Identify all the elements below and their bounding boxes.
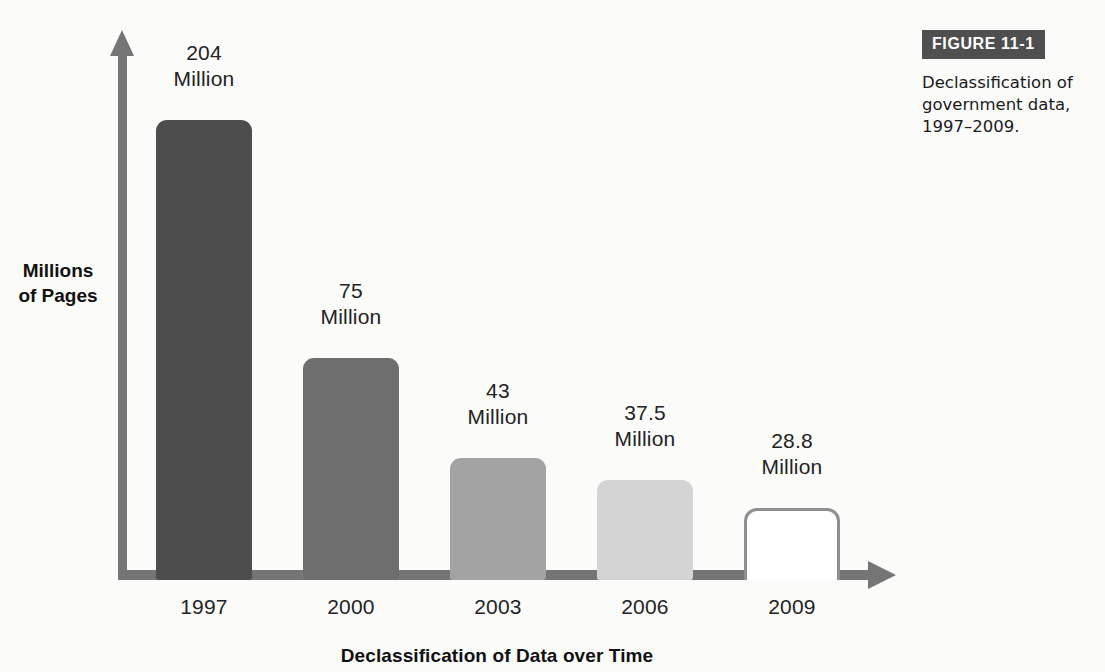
figure-container: 204 Million199775 Million200043 Million2… [0, 0, 1105, 672]
bar-value-label-1997: 204 Million [140, 40, 268, 92]
y-axis-title: Millions of Pages [2, 258, 114, 308]
bar-value-label-2009: 28.8 Million [728, 428, 856, 480]
bar-value-label-2000: 75 Million [287, 278, 415, 330]
x-axis-tick-label-2003: 2003 [434, 595, 562, 619]
y-axis-arrowhead-icon [110, 30, 134, 56]
bar-value-label-2003: 43 Million [434, 378, 562, 430]
bar-2006 [597, 480, 693, 580]
x-axis-tick-label-2009: 2009 [728, 595, 856, 619]
bar-chart: 204 Million199775 Million200043 Million2… [0, 0, 900, 672]
figure-number-badge: FIGURE 11-1 [922, 30, 1045, 59]
bar-1997 [156, 120, 252, 580]
figure-caption-block: FIGURE 11-1 Declassification of governme… [922, 30, 1097, 138]
bar-2000 [303, 358, 399, 580]
bar-2009 [744, 508, 840, 580]
x-axis-title: Declassification of Data over Time [118, 645, 876, 667]
x-axis-arrowhead-icon [868, 561, 896, 589]
bar-2003 [450, 458, 546, 580]
x-axis-tick-label-1997: 1997 [140, 595, 268, 619]
y-axis-line [118, 52, 127, 579]
bar-value-label-2006: 37.5 Million [581, 400, 709, 452]
figure-caption-text: Declassification of government data, 199… [922, 72, 1097, 138]
x-axis-tick-label-2006: 2006 [581, 595, 709, 619]
x-axis-tick-label-2000: 2000 [287, 595, 415, 619]
